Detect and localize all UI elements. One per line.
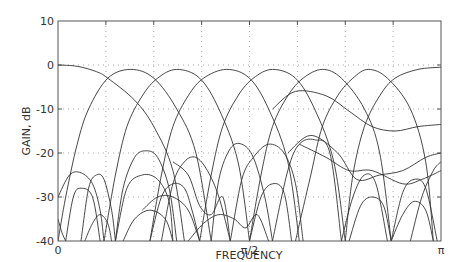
y-tick-label: 10 — [40, 15, 54, 28]
y-tick-label: -40 — [36, 235, 54, 248]
curve-lobe-m — [66, 188, 100, 241]
curve-lobe-w — [58, 219, 66, 241]
y-axis-title: GAIN, dB — [20, 106, 33, 155]
curve-lobe-j — [391, 179, 437, 241]
x-tick-label: π — [438, 244, 445, 257]
curve-lobe-l — [58, 172, 104, 241]
grid-lines — [58, 21, 441, 241]
curve-lobe-q — [123, 210, 173, 241]
curve-band-2-main — [104, 69, 250, 241]
x-axis-title: FREQUENCY — [215, 249, 282, 262]
y-tick-label: -20 — [36, 147, 54, 160]
y-tick-label: 0 — [47, 59, 54, 72]
curve-lobe-h — [341, 174, 387, 241]
curve-lobe-u — [250, 184, 292, 241]
curve-lobe-d — [230, 144, 303, 241]
y-tick-label: -30 — [36, 191, 54, 204]
curve-band-6-main — [296, 69, 434, 241]
curve-lobe-i — [349, 197, 391, 241]
y-axis-ticks: 100-10-20-30-40 — [36, 15, 54, 248]
x-tick-label: 0 — [55, 244, 62, 257]
curve-band-5-main — [250, 69, 392, 241]
curve-band-7-main — [345, 67, 441, 241]
y-tick-label: -10 — [36, 103, 54, 116]
gain-frequency-chart: 100-10-20-30-40 0π/2π FREQUENCY GAIN, dB — [0, 0, 466, 262]
